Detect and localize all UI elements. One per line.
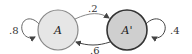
- edge-a-prime-to-a: .6: [76, 42, 110, 54]
- self-loop-a: .8: [9, 19, 39, 38]
- edge-a-to-a-prime-label: .2: [88, 3, 98, 14]
- self-loop-a-label: .8: [9, 25, 19, 36]
- node-a-prime: A': [107, 10, 147, 50]
- self-loop-a-prime: .4: [146, 19, 180, 38]
- edge-a-to-a-prime: .2: [75, 3, 109, 19]
- self-loop-a-prime-label: .4: [170, 25, 180, 36]
- node-a-prime-label: A': [121, 24, 133, 37]
- edge-a-prime-to-a-label: .6: [90, 45, 100, 54]
- markov-diagram: .8 .2 .6 .4 A A': [0, 0, 192, 54]
- node-a: A: [38, 10, 78, 50]
- node-a-label: A: [53, 24, 62, 37]
